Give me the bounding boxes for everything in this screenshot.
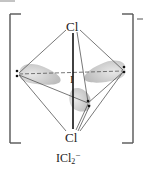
right-bracket — [122, 14, 133, 143]
atom-label-bottom-cl: Cl — [65, 131, 77, 144]
atom-label-top-cl: Cl — [66, 20, 78, 33]
molecule-caption: ICl2− — [56, 151, 80, 166]
caption-main: ICl — [56, 151, 71, 165]
diagram-canvas: Cl I Cl ICl2− — [0, 0, 148, 177]
atom-label-center-i: I — [70, 74, 74, 85]
caption-superscript: − — [75, 150, 80, 160]
left-bracket — [10, 14, 21, 143]
